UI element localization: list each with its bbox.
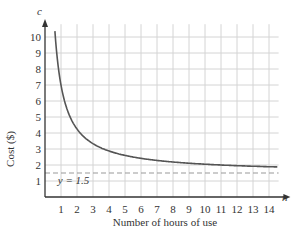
- y-tick-label: 2: [36, 159, 42, 171]
- cost-curve: [55, 31, 277, 167]
- y-tick-label: 10: [30, 31, 42, 43]
- x-tick-label: 8: [170, 203, 176, 215]
- x-tick-label: 9: [186, 203, 192, 215]
- x-tick-label: 11: [216, 203, 227, 215]
- y-axis-label: Cost ($): [4, 131, 17, 167]
- x-tick-label: 7: [154, 203, 160, 215]
- chart: y = 1.5cn123456789101112131412345678910N…: [0, 0, 292, 233]
- y-tick-label: 4: [36, 127, 42, 139]
- x-axis-label: Number of hours of use: [113, 216, 218, 228]
- x-axis-var: n: [282, 191, 288, 203]
- x-tick-label: 13: [248, 203, 260, 215]
- x-tick-label: 4: [106, 203, 112, 215]
- x-tick-label: 14: [264, 203, 276, 215]
- y-tick-label: 6: [36, 95, 42, 107]
- x-tick-label: 6: [138, 203, 144, 215]
- y-axis-arrow-icon: [42, 19, 48, 27]
- y-tick-label: 1: [36, 175, 42, 187]
- x-tick-label: 1: [58, 203, 64, 215]
- y-axis-var: c: [37, 5, 42, 17]
- x-tick-label: 5: [122, 203, 128, 215]
- y-tick-label: 8: [36, 63, 42, 75]
- asymptote-label: y = 1.5: [57, 174, 90, 186]
- y-tick-label: 7: [36, 79, 42, 91]
- x-tick-label: 3: [90, 203, 96, 215]
- y-tick-label: 9: [36, 47, 42, 59]
- x-tick-label: 2: [74, 203, 80, 215]
- y-tick-label: 5: [36, 111, 42, 123]
- x-tick-label: 12: [232, 203, 243, 215]
- x-tick-label: 10: [200, 203, 212, 215]
- y-tick-label: 3: [36, 143, 42, 155]
